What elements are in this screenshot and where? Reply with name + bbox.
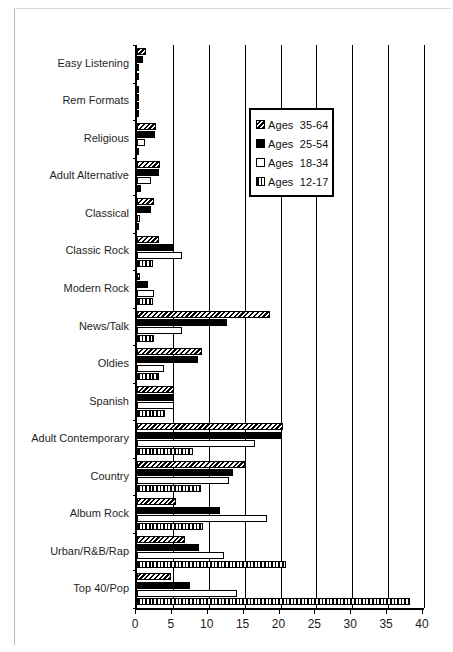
x-axis-tick-15 xyxy=(243,608,244,614)
bar xyxy=(137,244,173,251)
y-axis-label-spanish: Spanish xyxy=(0,395,129,407)
bar xyxy=(137,131,155,138)
bar xyxy=(137,394,174,401)
gridline-35 xyxy=(388,45,389,608)
y-axis-label-top-40-pop: Top 40/Pop xyxy=(0,582,129,594)
x-axis-label-20: 20 xyxy=(264,617,294,631)
bar xyxy=(137,281,148,288)
bar xyxy=(137,544,199,551)
bar xyxy=(137,273,140,280)
legend-label-ages-12-17: Ages 12-17 xyxy=(268,176,328,188)
bar xyxy=(137,461,245,468)
bar xyxy=(137,94,139,101)
x-axis-tick-30 xyxy=(350,608,351,614)
bar xyxy=(137,64,139,71)
y-axis-tick xyxy=(133,420,137,421)
x-axis-tick-5 xyxy=(171,608,172,614)
y-axis-label-oldies: Oldies xyxy=(0,357,129,369)
bar xyxy=(137,448,193,455)
x-axis-label-0: 0 xyxy=(120,617,150,631)
bar xyxy=(137,185,141,192)
x-axis-label-35: 35 xyxy=(371,617,401,631)
x-axis-label-10: 10 xyxy=(192,617,222,631)
bar xyxy=(137,507,220,514)
bar xyxy=(137,498,176,505)
legend-item: Ages 25-54 xyxy=(256,134,332,153)
bar xyxy=(137,260,153,267)
bar xyxy=(137,206,151,213)
bar xyxy=(137,298,153,305)
y-axis-tick xyxy=(133,195,137,196)
x-axis-label-15: 15 xyxy=(228,617,258,631)
bar xyxy=(137,311,270,318)
bar xyxy=(137,561,286,568)
bar xyxy=(137,523,203,530)
x-axis-tick-40 xyxy=(422,608,423,614)
y-axis-label-urban-r-b-rap: Urban/R&B/Rap xyxy=(0,545,129,557)
x-axis-label-25: 25 xyxy=(299,617,329,631)
bar xyxy=(137,432,281,439)
gridline-30 xyxy=(352,45,353,608)
y-axis-tick xyxy=(133,308,137,309)
y-axis-tick xyxy=(133,495,137,496)
x-axis-label-5: 5 xyxy=(156,617,186,631)
bar xyxy=(137,86,139,93)
bar xyxy=(137,598,410,605)
legend-item: Ages 12-17 xyxy=(256,172,332,191)
bar xyxy=(137,485,201,492)
legend-swatch-ages-18-34 xyxy=(256,158,265,167)
gridline-40 xyxy=(424,45,425,608)
legend-label-ages-35-64: Ages 35-64 xyxy=(268,119,328,131)
x-axis-tick-35 xyxy=(386,608,387,614)
legend-item: Ages 35-64 xyxy=(256,115,332,134)
y-axis-tick xyxy=(133,345,137,346)
y-axis-tick xyxy=(133,458,137,459)
bar xyxy=(137,56,143,63)
bar xyxy=(137,348,202,355)
y-axis-tick xyxy=(133,570,137,571)
bar xyxy=(137,252,182,259)
bar xyxy=(137,161,160,168)
y-axis-label-adult-alternative: Adult Alternative xyxy=(0,169,129,181)
y-axis-label-album-rock: Album Rock xyxy=(0,507,129,519)
bar xyxy=(137,386,174,393)
y-axis-label-news-talk: News/Talk xyxy=(0,320,129,332)
bar xyxy=(137,290,154,297)
legend-item: Ages 18-34 xyxy=(256,153,332,172)
bar xyxy=(137,356,198,363)
bar xyxy=(137,477,229,484)
bar xyxy=(137,327,182,334)
y-axis-tick xyxy=(133,45,137,46)
bar xyxy=(137,582,190,589)
x-axis-label-30: 30 xyxy=(335,617,365,631)
y-axis-tick xyxy=(133,383,137,384)
y-axis-label-country: Country xyxy=(0,470,129,482)
y-axis-label-rem-formats: Rem Formats xyxy=(0,94,129,106)
bar xyxy=(137,177,151,184)
y-axis-tick xyxy=(133,158,137,159)
y-axis-tick xyxy=(133,83,137,84)
x-axis-tick-0 xyxy=(135,608,136,614)
y-axis-label-easy-listening: Easy Listening xyxy=(0,57,129,69)
y-axis-tick xyxy=(133,233,137,234)
y-axis-tick xyxy=(133,533,137,534)
legend-swatch-ages-25-54 xyxy=(256,139,265,148)
legend-swatch-ages-35-64 xyxy=(256,120,265,129)
bar xyxy=(137,73,139,80)
legend-label-ages-25-54: Ages 25-54 xyxy=(268,138,328,150)
bar xyxy=(137,169,159,176)
bar xyxy=(137,552,224,559)
bar xyxy=(137,110,139,117)
bar xyxy=(137,215,140,222)
legend-label-ages-18-34: Ages 18-34 xyxy=(268,157,328,169)
y-axis-tick xyxy=(133,270,137,271)
bar xyxy=(137,139,145,146)
legend-swatch-ages-12-17 xyxy=(256,177,265,186)
legend: Ages 35-64 Ages 25-54 Ages 18-34 Ages 12… xyxy=(249,108,334,197)
bar xyxy=(137,573,171,580)
gridline-15 xyxy=(245,45,246,608)
x-axis-tick-10 xyxy=(207,608,208,614)
gridline-10 xyxy=(209,45,210,608)
bar xyxy=(137,365,164,372)
bar xyxy=(137,148,139,155)
